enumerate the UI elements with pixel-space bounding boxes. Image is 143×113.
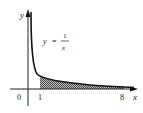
curve-1-over-x bbox=[31, 12, 134, 88]
origin-label: 0 bbox=[17, 93, 21, 102]
function-plot: y 0 1 8 x y = 1 x bbox=[0, 0, 143, 113]
y-axis-arrow-icon bbox=[26, 9, 31, 17]
equation-lhs: y bbox=[42, 37, 47, 46]
x-tick-label-8: 8 bbox=[120, 93, 124, 102]
y-axis-label: y bbox=[19, 10, 24, 20]
x-axis-label: x bbox=[132, 92, 137, 102]
equation-denominator: x bbox=[61, 44, 66, 52]
equation-numerator: 1 bbox=[63, 32, 67, 40]
equation-label: y = 1 x bbox=[42, 32, 69, 52]
x-tick-label-1: 1 bbox=[38, 93, 42, 102]
equation-equals: = bbox=[52, 37, 57, 46]
